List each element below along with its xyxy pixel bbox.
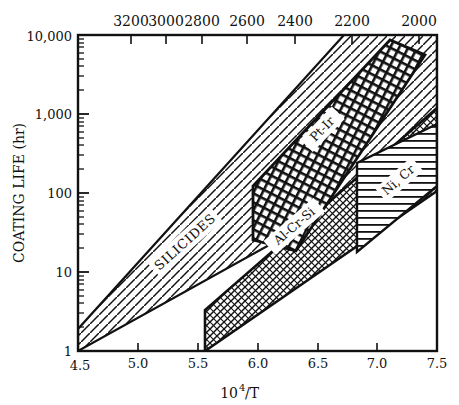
x-tick-label: 5.5	[188, 356, 209, 371]
arrhenius-coating-life-chart: 4.5 5.0 5.5 6.0 6.5 7.0 7.5 3200 3000 28…	[0, 0, 459, 405]
x-tick-label: 7.5	[427, 356, 448, 371]
y-tick-label: 10	[55, 265, 72, 280]
top-tick-label: 3000	[148, 13, 184, 29]
y-tick-label: 100	[47, 186, 72, 201]
y-tick-label: 10,000	[27, 29, 73, 44]
chart-figure: 4.5 5.0 5.5 6.0 6.5 7.0 7.5 3200 3000 28…	[0, 0, 459, 405]
top-tick-label: 2400	[277, 13, 313, 29]
x-tick-label: 5.0	[128, 356, 149, 371]
x-axis-title-base: 10	[220, 385, 238, 401]
x-tick-label: 7.0	[367, 356, 388, 371]
top-tick-label: 2600	[229, 13, 265, 29]
y-axis-title: COATING LIFE (hr)	[11, 123, 27, 263]
top-tick-label: 2000	[401, 13, 437, 29]
y-tick-label: 1,000	[35, 107, 72, 122]
top-tick-label: 2200	[334, 13, 370, 29]
x-tick-label: 4.5	[70, 358, 91, 373]
x-tick-label: 6.5	[308, 356, 329, 371]
x-axis-title-tail: /T	[245, 385, 260, 401]
top-tick-label: 3200	[113, 13, 149, 29]
y-tick-label: 1	[64, 344, 72, 359]
x-tick-label: 6.0	[248, 356, 269, 371]
top-tick-label: 2800	[184, 13, 220, 29]
